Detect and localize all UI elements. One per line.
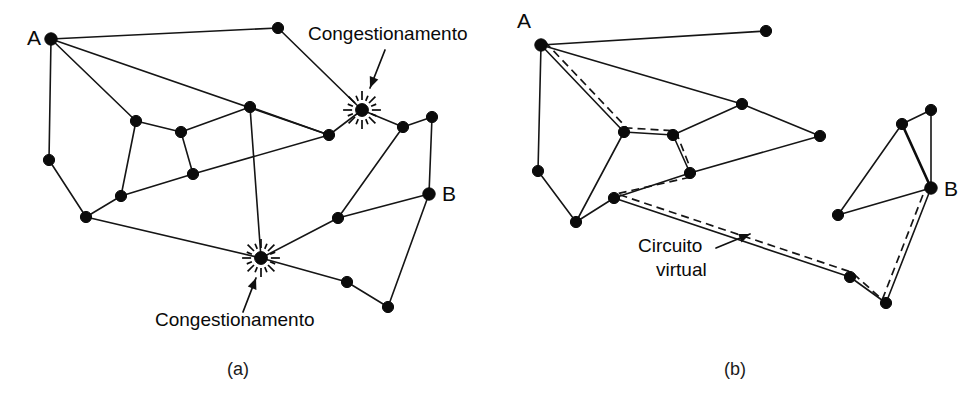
network-node[interactable] (323, 129, 334, 140)
network-link[interactable] (541, 31, 766, 45)
network-node[interactable] (426, 111, 437, 122)
network-link[interactable] (838, 124, 902, 215)
network-node[interactable] (832, 209, 843, 220)
congestion-label-top: Congestionamento (308, 23, 468, 44)
congestion-spike (247, 262, 252, 264)
network-node[interactable] (925, 104, 936, 115)
congestion-spike (255, 267, 257, 272)
congestion-spike (348, 114, 353, 116)
network-link[interactable] (576, 132, 624, 222)
network-link[interactable] (51, 28, 278, 39)
congestion-spike (356, 96, 358, 101)
network-link[interactable] (850, 277, 886, 303)
congestion-node[interactable] (255, 252, 268, 265)
network-node[interactable] (736, 98, 747, 109)
network-node[interactable] (175, 126, 186, 137)
network-link[interactable] (624, 132, 673, 135)
congestion-spike (255, 244, 257, 249)
network-link[interactable] (538, 45, 541, 171)
congestion-label-top-arrowhead-icon (370, 76, 379, 88)
network-link[interactable] (136, 121, 181, 132)
congestion-label-bottom-arrowhead-icon (248, 278, 257, 290)
network-node[interactable] (618, 126, 629, 137)
network-link[interactable] (181, 107, 250, 132)
congestion-spike (369, 97, 375, 103)
network-link[interactable] (673, 135, 690, 173)
network-link[interactable] (538, 171, 576, 222)
endpoint-node-b[interactable] (423, 188, 435, 200)
network-node[interactable] (532, 165, 543, 176)
network-node[interactable] (570, 216, 581, 227)
figure-root: ABCongestionamentoCongestionamento(a) AB… (0, 0, 974, 403)
network-link[interactable] (886, 188, 931, 303)
network-link[interactable] (86, 217, 261, 258)
network-node[interactable] (608, 192, 619, 203)
network-link[interactable] (690, 136, 820, 173)
network-node[interactable] (844, 271, 855, 282)
network-link[interactable] (121, 174, 193, 196)
network-node[interactable] (896, 118, 907, 129)
network-link[interactable] (388, 194, 429, 307)
network-link[interactable] (193, 135, 329, 174)
congestion-spike (348, 104, 353, 106)
network-node[interactable] (814, 130, 825, 141)
network-link[interactable] (181, 132, 193, 174)
network-link[interactable] (742, 104, 820, 136)
network-link[interactable] (338, 127, 403, 218)
network-node[interactable] (115, 190, 126, 201)
network-link[interactable] (673, 104, 742, 135)
congestion-spike (366, 119, 368, 124)
network-node[interactable] (130, 115, 141, 126)
network-link[interactable] (250, 107, 261, 258)
network-node[interactable] (80, 211, 91, 222)
network-link[interactable] (49, 160, 86, 217)
congestion-spike (349, 97, 355, 103)
network-link[interactable] (541, 45, 742, 104)
panel-caption-a: (a) (227, 359, 249, 379)
network-link[interactable] (51, 39, 136, 121)
congestion-spike (265, 244, 267, 249)
panel-caption-b: (b) (724, 359, 746, 379)
virtual-circuit-label-line2: virtual (656, 259, 707, 280)
network-link[interactable] (261, 218, 338, 258)
endpoint-node-a[interactable] (45, 33, 57, 45)
network-node[interactable] (332, 212, 343, 223)
network-node[interactable] (397, 121, 408, 132)
congestion-spike (268, 265, 274, 271)
congestion-spike (265, 267, 267, 272)
endpoint-label-a: A (517, 9, 531, 32)
network-node[interactable] (880, 297, 891, 308)
network-node[interactable] (684, 167, 695, 178)
endpoint-node-b[interactable] (925, 182, 937, 194)
network-node[interactable] (272, 22, 283, 33)
congestion-spike (366, 96, 368, 101)
network-link[interactable] (86, 196, 121, 217)
network-node[interactable] (341, 276, 352, 287)
congestion-spike (371, 114, 376, 116)
virtual-circuit-label-line1: Circuito (638, 235, 702, 256)
network-node[interactable] (760, 25, 771, 36)
network-node[interactable] (382, 301, 393, 312)
network-link[interactable] (429, 117, 432, 194)
network-link[interactable] (347, 282, 388, 307)
network-node[interactable] (667, 129, 678, 140)
network-link-highlighted[interactable] (902, 124, 931, 188)
network-link[interactable] (49, 39, 51, 160)
endpoint-label-b: B (442, 182, 456, 205)
network-link[interactable] (614, 173, 690, 198)
network-node[interactable] (43, 154, 54, 165)
endpoint-label-a: A (27, 26, 41, 49)
network-link[interactable] (541, 45, 624, 132)
network-node[interactable] (187, 168, 198, 179)
network-node[interactable] (244, 101, 255, 112)
congestion-spike (371, 104, 376, 106)
congestion-spike (369, 117, 375, 123)
endpoint-node-a[interactable] (535, 39, 547, 51)
congestion-spike (356, 119, 358, 124)
panel-a: ABCongestionamentoCongestionamento(a) (27, 22, 468, 379)
network-link[interactable] (250, 107, 329, 135)
congestion-spike (247, 252, 252, 254)
network-link[interactable] (121, 121, 136, 196)
congestion-node[interactable] (356, 104, 369, 117)
congestion-burst-icon (343, 91, 381, 129)
